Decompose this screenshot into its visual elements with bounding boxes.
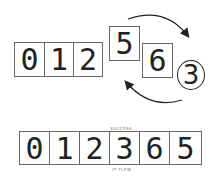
result-cell-1: 1 bbox=[49, 131, 80, 165]
raised-cell-5: 5 bbox=[109, 26, 140, 61]
cell-6: 6 bbox=[142, 43, 173, 78]
result-cell-5: 5 bbox=[169, 131, 202, 165]
result-cell-4: 6 bbox=[139, 131, 170, 165]
circled-value-3: 3 bbox=[177, 60, 205, 90]
result-cell-0: 0 bbox=[19, 131, 50, 165]
cell-1: 1 bbox=[44, 42, 74, 77]
result-cell-2: 2 bbox=[79, 131, 110, 165]
result-cell-3: 3 bbox=[109, 131, 140, 165]
cell-2: 2 bbox=[73, 42, 103, 77]
arrow-bottom-icon bbox=[126, 82, 182, 103]
label-below: IT FLEW bbox=[112, 167, 131, 172]
cell-0: 0 bbox=[14, 42, 45, 77]
